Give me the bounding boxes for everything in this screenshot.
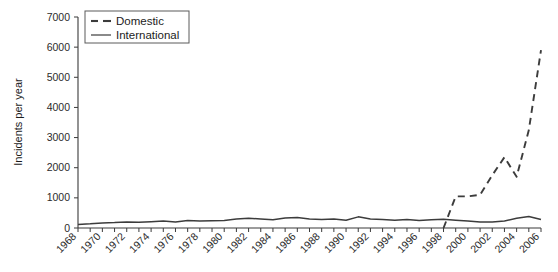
x-tick-label: 2002 [468, 230, 493, 255]
legend-label-international: International [116, 29, 179, 41]
x-tick-label: 1968 [53, 230, 78, 255]
y-tick-label: 6000 [47, 41, 71, 53]
series-line-domestic [444, 50, 541, 228]
x-tick-label: 1976 [151, 230, 176, 255]
x-tick-label: 1984 [248, 230, 273, 255]
y-axis-title-label: Incidents per year [12, 78, 24, 166]
incidents-per-year-line-chart: Incidents per year 010002000300040005000… [0, 0, 558, 272]
y-tick-label: 2000 [47, 161, 71, 173]
x-tick-label: 1988 [297, 230, 322, 255]
y-tick-label: 3000 [47, 131, 71, 143]
x-tick-label: 2000 [443, 230, 468, 255]
y-axis-title: Incidents per year [12, 78, 24, 166]
y-tick-label: 7000 [47, 11, 71, 23]
x-tick-label: 1972 [102, 230, 127, 255]
x-tick-label: 1996 [395, 230, 420, 255]
y-tick-label: 4000 [47, 101, 71, 113]
x-tick-label: 2004 [492, 230, 517, 255]
y-tick-label: 5000 [47, 71, 71, 83]
chart-legend: Domestic International [85, 11, 189, 43]
y-axis-ticks: 01000200030004000500060007000 [47, 11, 78, 234]
x-tick-label: 1992 [346, 230, 371, 255]
series-line-international [78, 217, 541, 225]
chart-container: Incidents per year 010002000300040005000… [0, 0, 558, 272]
x-tick-label: 1980 [200, 230, 225, 255]
x-tick-label: 1982 [224, 230, 249, 255]
x-tick-label: 2006 [516, 230, 541, 255]
data-series-group [78, 50, 541, 228]
legend-label-domestic: Domestic [116, 15, 164, 27]
x-tick-label: 1994 [370, 230, 395, 255]
x-axis-ticks: 1968197019721974197619781980198219841986… [53, 228, 541, 255]
x-tick-label: 1990 [321, 230, 346, 255]
x-tick-label: 1970 [78, 230, 103, 255]
x-tick-label: 1978 [175, 230, 200, 255]
x-tick-label: 1986 [273, 230, 298, 255]
y-tick-label: 1000 [47, 191, 71, 203]
x-tick-label: 1998 [419, 230, 444, 255]
x-tick-label: 1974 [127, 230, 152, 255]
